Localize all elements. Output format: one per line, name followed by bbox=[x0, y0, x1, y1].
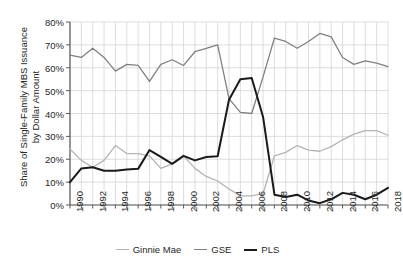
x-tick-label: 2000 bbox=[188, 191, 199, 212]
legend-swatch-line-icon bbox=[194, 249, 207, 250]
x-tick-label: 2010 bbox=[301, 191, 312, 212]
x-tick-label: 2014 bbox=[347, 191, 358, 212]
x-tick-label: 1992 bbox=[97, 191, 108, 212]
x-tick-label: 2004 bbox=[233, 191, 244, 212]
legend-item-pls[interactable]: PLS bbox=[244, 244, 279, 255]
chart-legend: Ginnie MaeGSEPLS bbox=[0, 244, 395, 255]
x-tick-label: 2016 bbox=[369, 191, 380, 212]
x-tick-label: 1990 bbox=[74, 191, 85, 212]
x-tick-label: 2002 bbox=[210, 191, 221, 212]
x-tick-label: 2006 bbox=[256, 191, 267, 212]
legend-item-ginnie-mae[interactable]: Ginnie Mae bbox=[116, 244, 182, 255]
legend-item-gse[interactable]: GSE bbox=[194, 244, 231, 255]
x-tick-label: 1998 bbox=[165, 191, 176, 212]
legend-label: GSE bbox=[211, 244, 231, 255]
legend-swatch-line-icon bbox=[244, 249, 257, 251]
legend-swatch-line-icon bbox=[116, 249, 129, 250]
x-tick-label: 1996 bbox=[142, 191, 153, 212]
legend-label: Ginnie Mae bbox=[133, 244, 182, 255]
legend-label: PLS bbox=[261, 244, 279, 255]
x-tick-label: 2008 bbox=[278, 191, 289, 212]
x-tick-label: 2018 bbox=[392, 191, 403, 212]
x-tick-label: 2012 bbox=[324, 191, 335, 212]
x-tick-label: 1994 bbox=[119, 191, 130, 212]
